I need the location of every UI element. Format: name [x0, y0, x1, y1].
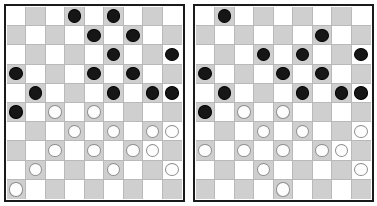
white-checker-piece[interactable] [68, 125, 82, 138]
board-square[interactable] [124, 45, 143, 64]
board-square[interactable] [104, 122, 123, 141]
board-square[interactable] [254, 45, 273, 64]
black-checker-piece[interactable] [107, 9, 121, 22]
board-square[interactable] [215, 84, 234, 103]
black-checker-piece[interactable] [296, 86, 310, 99]
board-square[interactable] [215, 65, 234, 84]
board-square[interactable] [85, 45, 104, 64]
white-checker-piece[interactable] [146, 125, 160, 138]
board-square[interactable] [7, 180, 26, 199]
board-square[interactable] [85, 26, 104, 45]
board-square[interactable] [143, 161, 162, 180]
board-square[interactable] [352, 161, 371, 180]
board-square[interactable] [163, 180, 182, 199]
board-square[interactable] [26, 180, 45, 199]
board-square[interactable] [196, 65, 215, 84]
white-checker-piece[interactable] [315, 144, 329, 157]
board-square[interactable] [163, 122, 182, 141]
white-checker-piece[interactable] [87, 144, 101, 157]
board-square[interactable] [352, 180, 371, 199]
white-checker-piece[interactable] [198, 144, 212, 157]
board-square[interactable] [313, 26, 332, 45]
board-square[interactable] [313, 161, 332, 180]
board-square[interactable] [274, 7, 293, 26]
board-square[interactable] [26, 84, 45, 103]
board-square[interactable] [274, 180, 293, 199]
board-square[interactable] [352, 141, 371, 160]
board-square[interactable] [143, 180, 162, 199]
board-square[interactable] [7, 84, 26, 103]
board-square[interactable] [235, 161, 254, 180]
white-checker-piece[interactable] [165, 125, 179, 138]
white-checker-piece[interactable] [29, 163, 43, 176]
board-square[interactable] [332, 26, 351, 45]
board-square[interactable] [7, 122, 26, 141]
white-checker-piece[interactable] [354, 125, 368, 138]
board-square[interactable] [352, 7, 371, 26]
board-square[interactable] [254, 141, 273, 160]
board-square[interactable] [7, 7, 26, 26]
board-square[interactable] [46, 161, 65, 180]
black-checker-piece[interactable] [126, 29, 140, 42]
board-square[interactable] [332, 7, 351, 26]
board-square[interactable] [215, 7, 234, 26]
board-square[interactable] [163, 7, 182, 26]
white-checker-piece[interactable] [276, 144, 290, 157]
board-square[interactable] [196, 122, 215, 141]
board-square[interactable] [124, 26, 143, 45]
black-checker-piece[interactable] [257, 48, 271, 61]
board-square[interactable] [254, 122, 273, 141]
board-square[interactable] [104, 161, 123, 180]
board-square[interactable] [7, 45, 26, 64]
board-square[interactable] [143, 7, 162, 26]
white-checker-piece[interactable] [257, 163, 271, 176]
board-square[interactable] [26, 122, 45, 141]
black-checker-piece[interactable] [218, 9, 232, 22]
board-square[interactable] [293, 141, 312, 160]
board-square[interactable] [104, 45, 123, 64]
board-square[interactable] [124, 161, 143, 180]
board-square[interactable] [274, 45, 293, 64]
white-checker-piece[interactable] [9, 182, 23, 196]
board-square[interactable] [163, 141, 182, 160]
black-checker-piece[interactable] [9, 67, 23, 80]
board-square[interactable] [235, 84, 254, 103]
board-square[interactable] [143, 26, 162, 45]
board-square[interactable] [163, 161, 182, 180]
board-square[interactable] [143, 141, 162, 160]
board-square[interactable] [26, 26, 45, 45]
board-square[interactable] [143, 103, 162, 122]
board-square[interactable] [215, 122, 234, 141]
board-square[interactable] [196, 180, 215, 199]
board-square[interactable] [352, 103, 371, 122]
board-square[interactable] [124, 103, 143, 122]
board-square[interactable] [293, 84, 312, 103]
board-square[interactable] [215, 180, 234, 199]
white-checker-piece[interactable] [296, 125, 310, 138]
board-square[interactable] [293, 26, 312, 45]
board-square[interactable] [313, 180, 332, 199]
board-square[interactable] [352, 65, 371, 84]
board-square[interactable] [26, 65, 45, 84]
board-square[interactable] [196, 45, 215, 64]
board-square[interactable] [254, 84, 273, 103]
board-square[interactable] [46, 26, 65, 45]
board-square[interactable] [215, 161, 234, 180]
board-square[interactable] [313, 141, 332, 160]
board-square[interactable] [104, 141, 123, 160]
board-square[interactable] [46, 45, 65, 64]
board-square[interactable] [254, 65, 273, 84]
board-square[interactable] [65, 122, 84, 141]
board-square[interactable] [313, 103, 332, 122]
board-square[interactable] [215, 103, 234, 122]
black-checker-piece[interactable] [146, 86, 160, 99]
board-square[interactable] [143, 122, 162, 141]
white-checker-piece[interactable] [107, 163, 121, 176]
white-checker-piece[interactable] [335, 144, 349, 157]
board-square[interactable] [293, 65, 312, 84]
board-square[interactable] [215, 45, 234, 64]
board-square[interactable] [352, 45, 371, 64]
black-checker-piece[interactable] [9, 105, 23, 118]
white-checker-piece[interactable] [276, 182, 290, 196]
board-square[interactable] [85, 7, 104, 26]
